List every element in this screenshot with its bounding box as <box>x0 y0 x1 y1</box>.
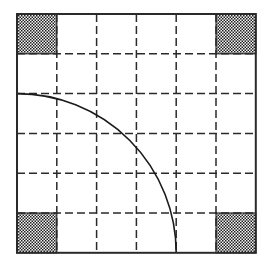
grid-diagram <box>0 0 272 271</box>
shaded-cell-top-right <box>216 14 256 54</box>
shaded-cell-bottom-left <box>17 213 57 253</box>
shaded-cell-top-left <box>17 14 57 54</box>
shaded-cell-bottom-right <box>216 213 256 253</box>
shaded-corner-cells <box>17 14 256 253</box>
